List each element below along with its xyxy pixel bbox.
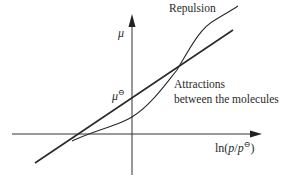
diagram-svg: [0, 0, 290, 183]
x-label-suffix: ): [250, 141, 254, 155]
x-axis-arrow-icon: [250, 131, 262, 138]
diagram-canvas: Repulsion Attractions between the molecu…: [0, 0, 290, 183]
y-axis-arrow-icon: [129, 14, 136, 27]
standard-state-icon: ⊖: [118, 88, 125, 97]
attractions-label-line2: between the molecules: [174, 94, 279, 106]
mu-standard-label: μ⊖: [112, 89, 125, 102]
y-axis-label: μ: [118, 27, 124, 39]
x-label-prefix: ln(: [215, 141, 228, 155]
repulsion-label: Repulsion: [169, 3, 216, 15]
attractions-label-line1: Attractions: [174, 79, 225, 91]
x-axis-label: ln(p/p⊖): [215, 141, 254, 154]
